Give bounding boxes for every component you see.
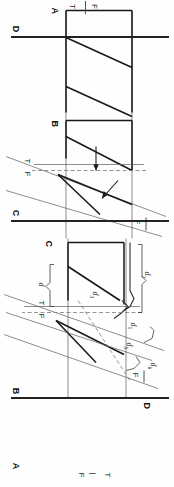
page-panel-label-b: B xyxy=(11,388,21,395)
panel-c-measure-d2: d2 xyxy=(141,271,152,278)
panel-c-label: C xyxy=(44,240,54,247)
header-divider: | xyxy=(89,472,98,474)
panel-a-label: A xyxy=(50,7,60,14)
panel-c-marker-f-right: F xyxy=(131,372,140,377)
page-panel-label-a: A xyxy=(11,463,21,470)
panel-c-measure-d3: d3 xyxy=(89,291,100,298)
panel-b-label: B xyxy=(50,120,60,127)
figure-plate: A d xyxy=(0,0,174,487)
panel-c-measure-d1: d1 xyxy=(127,322,138,329)
header-marker-f: F xyxy=(77,472,86,477)
header-divider-glyph xyxy=(85,1,86,14)
panel-d: D xyxy=(0,398,174,487)
panel-c-marker-t: T xyxy=(37,300,46,305)
panel-b-marker-t: T xyxy=(23,158,32,163)
header-marker-t: T xyxy=(103,472,112,477)
divider-rule-b xyxy=(11,397,169,399)
page-panel-label-c: C xyxy=(11,210,21,217)
header-marker-f-glyph: F xyxy=(90,4,99,9)
divider-rule-d xyxy=(11,36,169,38)
figure-page: A d xyxy=(0,0,174,487)
header-marker-t-glyph: T xyxy=(68,4,77,9)
panel-c-measure-d6: d6 xyxy=(147,362,158,369)
divider-rule-c xyxy=(11,220,169,222)
panel-d-label: D xyxy=(142,402,152,409)
panel-c-measure-d: d xyxy=(37,282,46,286)
panel-c-measure-d5: d5 xyxy=(123,342,134,349)
header-group: T F xyxy=(70,2,110,18)
panel-b-marker-f: F xyxy=(23,171,32,176)
panel-c-graphic xyxy=(0,238,174,398)
page-panel-label-d: D xyxy=(11,26,21,33)
panel-c: C d2 d3 d d1 d5 d6 d4 T F F xyxy=(0,238,174,398)
panel-c-marker-f: F xyxy=(37,313,46,318)
